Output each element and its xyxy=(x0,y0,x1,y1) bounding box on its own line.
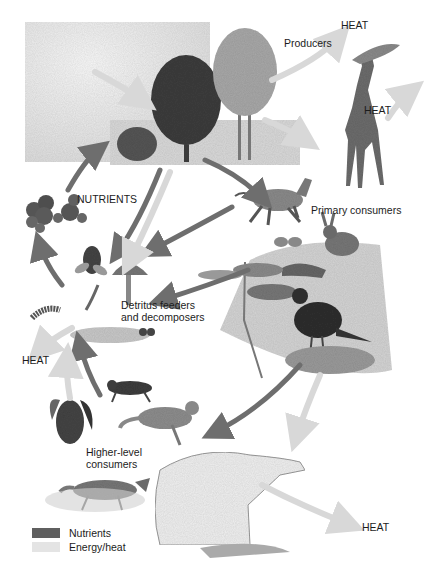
label-higher-level-consumers: Higher-level consumers xyxy=(86,446,142,470)
arrow-producers-to-detritus-energy xyxy=(130,172,170,260)
arrow-higher-to-detritus-energy xyxy=(67,360,70,398)
owl xyxy=(50,399,93,444)
label-heat-bottom: HEAT xyxy=(362,521,389,533)
hyena xyxy=(107,380,152,402)
label-higher-line2: consumers xyxy=(86,458,142,470)
worm xyxy=(86,285,98,310)
label-primary-consumers: Primary consumers xyxy=(311,204,401,216)
legend-item-energy-heat: Energy/heat xyxy=(32,540,126,554)
millipede xyxy=(32,309,60,318)
arrow-giraffe-heat xyxy=(388,92,410,118)
diagram-artwork xyxy=(0,0,426,576)
label-higher-line1: Higher-level xyxy=(86,446,142,458)
legend: Nutrients Energy/heat xyxy=(32,526,126,554)
fly xyxy=(73,246,109,277)
legend-label-energy-heat: Energy/heat xyxy=(69,541,126,553)
label-detritus-line2: and decomposers xyxy=(121,311,204,323)
arrow-higher-to-detritus xyxy=(80,345,100,395)
legend-item-nutrients: Nutrients xyxy=(32,526,126,540)
arrow-primary-to-higher xyxy=(215,365,300,432)
label-detritus-feeders: Detritus feeders and decomposers xyxy=(121,299,204,323)
label-producers: Producers xyxy=(284,37,332,49)
ecosystem-diagram: HEAT Producers HEAT NUTRIENTS Primary co… xyxy=(0,0,426,576)
label-nutrients: NUTRIENTS xyxy=(77,193,137,205)
label-heat-giraffe: HEAT xyxy=(364,104,391,116)
fox xyxy=(45,478,150,512)
label-detritus-line1: Detritus feeders xyxy=(121,299,204,311)
shrub xyxy=(117,127,157,161)
detritus-ground xyxy=(70,327,150,343)
cheetah xyxy=(120,401,199,445)
arrow-detritus-heat xyxy=(40,328,72,350)
polar-bear xyxy=(155,452,305,558)
rabbit xyxy=(322,212,359,256)
label-heat-top: HEAT xyxy=(341,19,368,31)
arrow-detritus-to-nutrients xyxy=(40,245,62,285)
arrow-producers-to-primary xyxy=(205,160,262,198)
acacia-branch xyxy=(352,44,400,64)
legend-label-nutrients: Nutrients xyxy=(69,527,111,539)
legend-swatch-energy-heat xyxy=(32,542,60,552)
butterfly xyxy=(274,237,302,247)
arrow-bear-heat xyxy=(262,485,348,524)
legend-swatch-nutrients xyxy=(32,528,60,538)
arrow-primary-to-higher-energy xyxy=(297,375,320,435)
arrow-primary-to-detritus xyxy=(152,207,232,250)
label-heat-left: HEAT xyxy=(22,354,49,366)
